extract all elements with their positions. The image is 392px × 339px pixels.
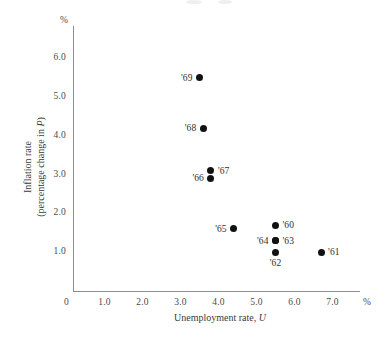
x-axis-unit-percent: % — [363, 297, 371, 307]
y-tick-label: 1.0 — [40, 246, 66, 256]
data-point-label: '67 — [218, 166, 230, 176]
y-axis-title-line2: (percentage change in P) — [34, 77, 47, 257]
data-point-label: '64 — [257, 236, 269, 246]
y-axis-title-line2-post: ) — [35, 117, 46, 120]
y-tick-label: 2.0 — [40, 207, 66, 217]
y-tick-label: 4.0 — [40, 130, 66, 140]
x-tick-label: 6.0 — [282, 297, 308, 307]
data-point-label: '62 — [270, 258, 282, 268]
y-axis-title: Inflation rate (percentage change in P) — [21, 77, 47, 257]
data-point — [318, 249, 325, 256]
data-point-label: '61 — [328, 247, 340, 257]
x-tick-label: 0 — [54, 297, 80, 307]
data-point-label: '63 — [283, 236, 295, 246]
x-axis-line — [73, 291, 360, 292]
scatter-plot-figure: % % Inflation rate (percentage change in… — [0, 0, 392, 339]
data-point-label: '69 — [181, 73, 193, 83]
y-tick-label: 6.0 — [40, 52, 66, 62]
y-axis-unit-percent: % — [60, 15, 68, 25]
x-tick-label: 5.0 — [244, 297, 270, 307]
data-point-label: '68 — [185, 123, 197, 133]
x-axis-title-main: Unemployment rate, — [174, 312, 256, 323]
y-axis-title-line1: Inflation rate — [21, 77, 34, 257]
data-point — [196, 74, 203, 81]
data-point-label: '66 — [192, 173, 204, 183]
x-tick-label: 2.0 — [130, 297, 156, 307]
x-tick-label: 1.0 — [92, 297, 118, 307]
x-axis-title-symbol-u: U — [259, 312, 266, 323]
y-tick-label: 5.0 — [40, 91, 66, 101]
data-point — [207, 167, 214, 174]
y-axis-line — [73, 26, 74, 292]
y-axis-title-symbol-p: P — [35, 121, 46, 127]
data-point — [207, 175, 214, 182]
x-tick-label: 3.0 — [168, 297, 194, 307]
x-tick-label: 7.0 — [320, 297, 346, 307]
data-point — [272, 222, 279, 229]
x-tick-label: 4.0 — [206, 297, 232, 307]
data-point-label: '60 — [283, 220, 295, 230]
data-point — [230, 225, 237, 232]
y-tick-label: 3.0 — [40, 169, 66, 179]
x-axis-title: Unemployment rate, U — [90, 312, 350, 323]
data-point — [200, 125, 207, 132]
data-point — [272, 237, 279, 244]
page-edge-artifact — [0, 0, 392, 6]
data-point-label: '65 — [215, 224, 227, 234]
data-point — [272, 249, 279, 256]
